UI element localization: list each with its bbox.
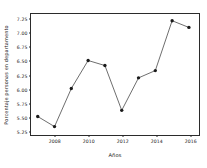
data-point bbox=[154, 69, 157, 72]
data-point bbox=[53, 125, 56, 128]
y-tick-label: 5.25 bbox=[17, 130, 31, 135]
y-tick-label: 6.50 bbox=[17, 59, 31, 64]
data-point bbox=[36, 115, 39, 118]
series-line bbox=[38, 21, 189, 127]
y-axis-title: Porcentaje personas en departamento bbox=[1, 13, 10, 136]
data-point bbox=[187, 26, 190, 29]
x-tick-mark-minor bbox=[105, 135, 106, 136]
x-tick-mark-minor bbox=[173, 135, 174, 136]
data-point bbox=[120, 109, 123, 112]
y-tick-label: 5.75 bbox=[17, 101, 31, 106]
data-point bbox=[86, 59, 89, 62]
chart-figure: Porcentaje personas en departamento 5.25… bbox=[0, 0, 207, 168]
y-tick-label: 6.00 bbox=[17, 87, 31, 92]
x-tick-label: 2010 bbox=[83, 135, 95, 144]
x-tick-label: 2012 bbox=[117, 135, 129, 144]
data-point bbox=[137, 76, 140, 79]
y-tick-label: 6.75 bbox=[17, 45, 31, 50]
x-tick-mark-minor bbox=[71, 135, 72, 136]
y-tick-label: 6.25 bbox=[17, 73, 31, 78]
x-tick-mark-minor bbox=[139, 135, 140, 136]
y-tick-label: 7.00 bbox=[17, 30, 31, 35]
x-tick-label: 2014 bbox=[151, 135, 163, 144]
plot-inner bbox=[31, 14, 199, 135]
y-tick-label: 7.25 bbox=[17, 16, 31, 21]
plot-area: 5.255.505.756.006.256.506.757.007.252008… bbox=[30, 13, 200, 136]
data-point bbox=[103, 64, 106, 67]
line-series bbox=[31, 14, 199, 135]
y-tick-label: 5.50 bbox=[17, 116, 31, 121]
data-point bbox=[170, 19, 173, 22]
y-axis-title-text: Porcentaje personas en departamento bbox=[3, 25, 9, 124]
x-tick-label: 2016 bbox=[185, 135, 197, 144]
x-tick-mark-minor bbox=[37, 135, 38, 136]
x-tick-label: 2008 bbox=[49, 135, 61, 144]
data-point bbox=[70, 87, 73, 90]
x-axis-title: Años bbox=[30, 152, 200, 158]
